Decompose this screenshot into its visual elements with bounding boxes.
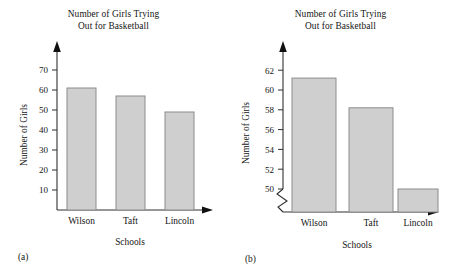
x-cat-label-wilson-a: Wilson (68, 216, 95, 226)
y-tick-label: 54 (265, 145, 275, 155)
x-cat-label-taft-a: Taft (123, 216, 138, 226)
bars-b (292, 78, 438, 212)
bar-wilson-b (292, 78, 336, 212)
x-cat-label-lincoln-b: Lincoln (403, 218, 432, 228)
bar-taft-a (116, 96, 145, 210)
bar-lincoln-a (165, 112, 194, 210)
bars-a (67, 88, 194, 210)
y-tick-label: 52 (265, 165, 274, 175)
y-tick-group-b (278, 70, 283, 189)
y-tick-label: 70 (39, 65, 49, 75)
x-axis-arrow-a (202, 206, 213, 213)
bar-chart-a: Number of Girls 10 20 30 40 (0, 0, 227, 274)
y-tick-label: 60 (265, 85, 275, 95)
y-tick-labels-b: 50 52 54 56 58 60 62 (265, 66, 275, 195)
x-axis-title-b: Schools (342, 240, 372, 250)
y-tick-label: 10 (39, 185, 49, 195)
x-axis-title-a: Schools (115, 237, 145, 247)
panel-tag-b: (b) (245, 254, 256, 265)
x-cat-label-wilson-b: Wilson (301, 218, 328, 228)
chart-panel-a: Number of Girls Trying Out for Basketbal… (0, 0, 227, 274)
y-axis-title-a: Number of Girls (19, 104, 29, 166)
axis-break-zigzag-b (277, 189, 287, 212)
y-axis-arrow-a (53, 41, 61, 52)
y-tick-label: 50 (39, 105, 49, 115)
bar-chart-b: Number of Girls 50 52 54 (227, 0, 454, 274)
x-cat-label-taft-b: Taft (364, 218, 379, 228)
y-tick-label: 30 (39, 145, 49, 155)
y-tick-label: 58 (265, 105, 275, 115)
bar-taft-b (349, 108, 393, 212)
chart-panel-b: Number of Girls Trying Out for Basketbal… (227, 0, 454, 274)
y-tick-label: 50 (265, 184, 275, 194)
bar-wilson-a (67, 88, 96, 210)
panel-tag-a: (a) (18, 252, 28, 263)
y-tick-label: 56 (265, 125, 275, 135)
y-tick-label: 62 (265, 66, 274, 76)
y-axis-title-b: Number of Girls (241, 102, 251, 164)
y-tick-label: 40 (39, 125, 49, 135)
y-tick-group-a (52, 70, 57, 190)
figure-two-bar-charts: Number of Girls Trying Out for Basketbal… (0, 0, 454, 274)
y-tick-labels-a: 10 20 30 40 50 60 70 (39, 65, 49, 195)
y-axis-arrow-b (279, 41, 287, 52)
x-cat-label-lincoln-a: Lincoln (165, 216, 194, 226)
y-tick-label: 20 (39, 165, 49, 175)
y-tick-label: 60 (39, 85, 49, 95)
bar-lincoln-b (398, 189, 438, 212)
